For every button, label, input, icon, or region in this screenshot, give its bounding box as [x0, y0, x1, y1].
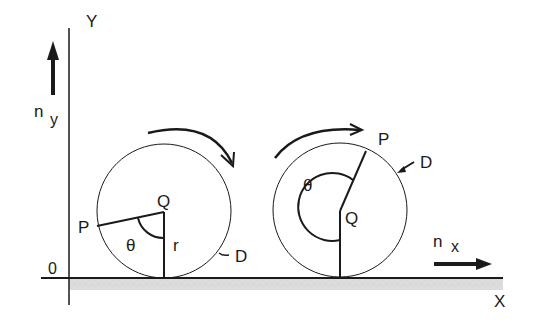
angle-label-right: θ — [303, 176, 312, 195]
radius-label: r — [173, 236, 179, 255]
disk-label-right: D — [420, 153, 432, 172]
arrow-right-icon — [476, 258, 492, 270]
wheel-right — [273, 124, 414, 278]
rolling-disk-diagram: Y X 0 n y n x Q P θ r D — [0, 0, 539, 326]
ground-surface — [69, 278, 503, 290]
origin-label: 0 — [48, 260, 57, 277]
x-axis-label: X — [494, 292, 505, 311]
nx-label: n — [433, 232, 442, 251]
ny-unit-vector — [47, 41, 59, 95]
angle-label-left: θ — [126, 236, 135, 255]
angle-arc-left — [138, 218, 164, 238]
ny-label: n — [34, 102, 43, 121]
y-axis-label: Y — [86, 12, 97, 31]
nx-subscript: x — [451, 238, 459, 255]
rotation-arrow-left — [148, 129, 232, 163]
point-label-right: P — [378, 130, 389, 149]
ny-subscript: y — [50, 111, 58, 128]
center-label-left: Q — [157, 192, 170, 211]
disk-label-left: D — [235, 247, 247, 266]
arrow-up-icon — [47, 41, 59, 60]
center-label-right: Q — [345, 209, 358, 228]
nx-unit-vector — [434, 258, 492, 270]
point-label-left: P — [78, 218, 89, 237]
